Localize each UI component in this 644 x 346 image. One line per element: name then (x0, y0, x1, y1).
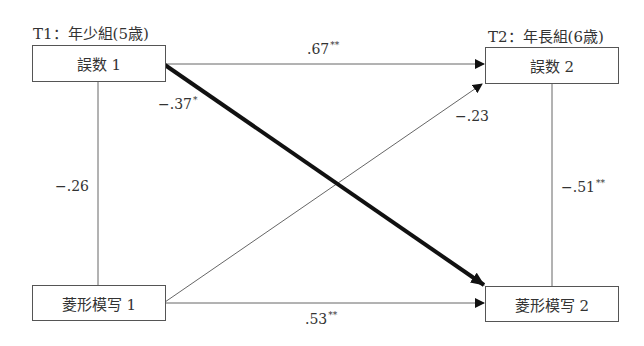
coef-errors1-errors2: .67** (307, 40, 339, 57)
node-errors1-label: 誤数 1 (77, 53, 121, 74)
path-diamond1-errors2 (165, 84, 482, 302)
node-diamond2: 菱形模写 2 (485, 286, 619, 322)
node-diamond2-label: 菱形模写 2 (515, 294, 589, 315)
cross-lagged-path-diagram: T1：年少組(5歳) T2：年長組(6歳) 誤数 1 誤数 2 菱形模写 1 菱… (0, 0, 644, 346)
coef-corr-t1: −.26 (55, 177, 90, 194)
node-errors2-label: 誤数 2 (530, 55, 574, 76)
t2-label: T2：年長組(6歳) (488, 25, 604, 46)
coef-diamond1-diamond2: .53** (305, 310, 337, 327)
node-diamond1: 菱形模写 1 (32, 285, 166, 321)
node-diamond1-label: 菱形模写 1 (62, 293, 136, 314)
node-errors2: 誤数 2 (485, 47, 619, 84)
coef-corr-t2: −.51** (561, 178, 605, 195)
coef-diamond1-errors2: −.23 (455, 107, 490, 124)
path-errors1-diamond2 (165, 65, 484, 285)
node-errors1: 誤数 1 (32, 45, 166, 82)
coef-errors1-diamond2: −.37* (158, 95, 198, 112)
t1-label: T1：年少組(5歳) (33, 22, 149, 43)
